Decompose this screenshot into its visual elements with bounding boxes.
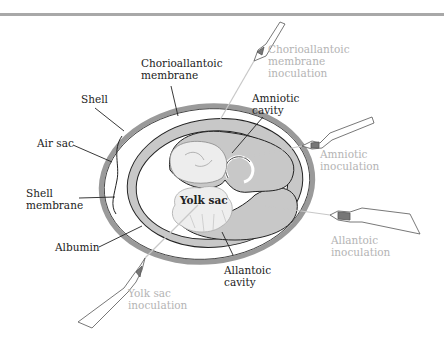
label-allantoic-cavity: Allantoic cavity xyxy=(224,264,271,288)
label-shell: Shell xyxy=(81,93,108,105)
label-chorioallantoic-membrane: Chorioallantoic membrane xyxy=(141,57,223,81)
label-yolk-sac: Yolk sac xyxy=(180,194,228,206)
label-amniotic-cavity: Amniotic cavity xyxy=(252,92,299,116)
embryo xyxy=(170,141,227,183)
syringe-icon xyxy=(330,208,420,234)
label-chorioallantoic-inoculation: Chorioallantoic membrane inoculation xyxy=(268,43,350,79)
egg-diagram xyxy=(0,0,444,349)
label-shell-membrane: Shell membrane xyxy=(26,187,83,211)
syringe-icon xyxy=(302,117,374,149)
label-air-sac: Air sac xyxy=(37,137,74,149)
label-albumin: Albumin xyxy=(55,241,100,253)
label-allantoic-inoculation: Allantoic inoculation xyxy=(331,234,390,258)
label-amniotic-inoculation: Amniotic inoculation xyxy=(320,148,379,172)
label-yolk-sac-inoculation: Yolk sac inoculation xyxy=(128,287,187,311)
